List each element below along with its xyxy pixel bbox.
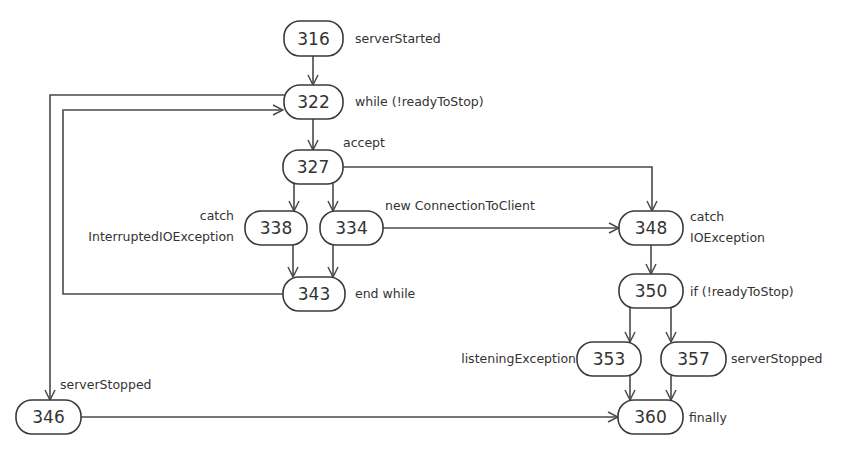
node-316-annotation: serverStarted (355, 31, 441, 46)
node-360: 360 finally (618, 400, 727, 434)
node-346-annotation: serverStopped (60, 377, 152, 392)
edge-343-322 (63, 110, 283, 294)
node-360-id: 360 (634, 407, 666, 427)
node-334-id: 334 (335, 218, 367, 238)
node-350: 350 if (!readyToStop) (619, 274, 794, 308)
node-316: 316 serverStarted (284, 21, 441, 56)
node-350-id: 350 (635, 281, 667, 301)
node-348-id: 348 (635, 218, 667, 238)
node-334: 334 new ConnectionToClient (320, 198, 535, 245)
node-338-id: 338 (260, 218, 292, 238)
node-343: 343 end while (283, 277, 416, 311)
node-334-annotation: new ConnectionToClient (385, 198, 535, 213)
node-346-id: 346 (32, 407, 64, 427)
node-357: 357 serverStopped (661, 342, 823, 376)
node-322-id: 322 (297, 92, 329, 112)
node-338-annotation-line1: catch (200, 208, 234, 223)
node-322-annotation: while (!readyToStop) (355, 94, 484, 109)
node-357-id: 357 (677, 349, 709, 369)
edge-322-346 (50, 95, 285, 400)
node-338: 338 catch InterruptedIOException (88, 208, 307, 245)
control-flow-graph: 316 serverStarted 322 while (!readyToSto… (0, 0, 850, 452)
node-327: 327 accept (283, 135, 385, 184)
node-350-annotation: if (!readyToStop) (690, 284, 794, 299)
node-327-id: 327 (297, 157, 329, 177)
node-360-annotation: finally (689, 410, 727, 425)
node-348: 348 catch IOException (619, 209, 765, 245)
node-316-id: 316 (297, 29, 329, 49)
node-346: 346 serverStopped (16, 377, 152, 434)
node-348-annotation-line1: catch (690, 209, 724, 224)
node-357-annotation: serverStopped (731, 351, 823, 366)
node-353: 353 listeningException (461, 342, 641, 376)
node-343-id: 343 (298, 284, 330, 304)
node-353-annotation: listeningException (461, 351, 576, 366)
node-353-id: 353 (593, 349, 625, 369)
node-327-annotation: accept (343, 135, 385, 150)
node-343-annotation: end while (355, 286, 416, 301)
node-322: 322 while (!readyToStop) (284, 85, 484, 119)
node-348-annotation-line2: IOException (690, 230, 765, 245)
node-338-annotation-line2: InterruptedIOException (88, 229, 234, 244)
